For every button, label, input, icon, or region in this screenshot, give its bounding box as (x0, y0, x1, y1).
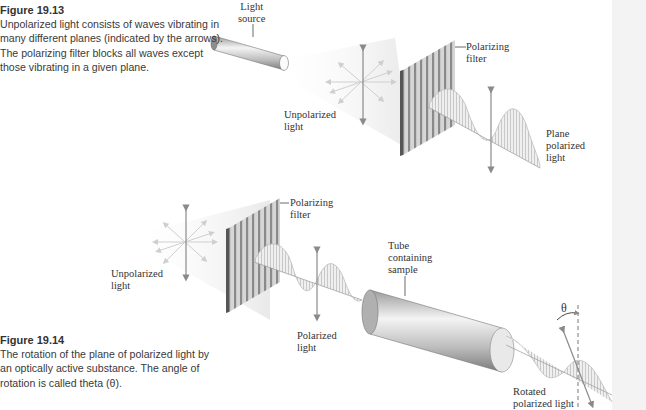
figure-title: Figure 19.13 (0, 3, 230, 17)
label-polarizing-filter: Polarizing filter (290, 197, 333, 221)
label-rotated-polarized-light: Rotated polarized light (513, 386, 574, 410)
theta-angle-arc-icon (557, 313, 577, 320)
figure-19-13-caption: Figure 19.13 Unpolarized light consists … (0, 3, 230, 74)
label-unpolarized-light: Unpolarized light (111, 268, 163, 292)
label-tube-containing-sample: Tube containing sample (388, 240, 432, 276)
figure-title: Figure 19.14 (0, 333, 220, 347)
label-light-source: Light source (238, 1, 265, 25)
figure-caption-text: The rotation of the plane of polarized l… (0, 347, 220, 390)
label-polarized-light: Polarized light (297, 330, 337, 354)
label-theta: θ (561, 302, 567, 314)
sample-tube-icon (362, 276, 514, 372)
label-polarizing-filter: Polarizing filter (466, 41, 509, 65)
label-unpolarized-light: Unpolarized light (284, 109, 336, 133)
label-plane-polarized-light: Plane polarized light (546, 128, 585, 164)
figure-caption-text: Unpolarized light consists of waves vibr… (0, 17, 230, 74)
figure-19-14-caption: Figure 19.14 The rotation of the plane o… (0, 333, 220, 390)
light-cone (282, 38, 410, 150)
